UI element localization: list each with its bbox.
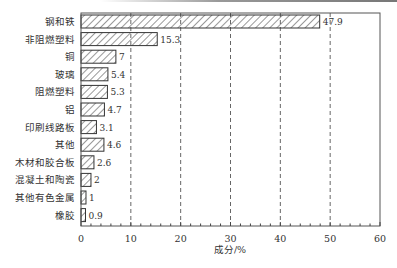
value-label: 4.6: [107, 140, 122, 150]
category-label: 阻燃塑料: [35, 86, 75, 97]
bar-row: 混凝土和陶瓷2: [15, 173, 100, 186]
bar: [81, 103, 104, 116]
bar: [81, 121, 96, 134]
bar: [81, 85, 107, 98]
bar: [81, 50, 116, 63]
bar: [81, 138, 104, 151]
bar-chart: 钢和铁47.9非阻燃塑料15.3铜7玻璃5.4阻燃塑料5.3铝4.7印刷线路板3…: [0, 0, 397, 268]
value-label: 2: [94, 175, 100, 185]
bar-row: 其他有色金属1: [15, 191, 95, 204]
category-label: 其他有色金属: [15, 192, 75, 203]
value-label: 4.7: [107, 105, 122, 115]
x-tick-label: 60: [374, 233, 386, 244]
bar-row: 木材和胶合板2.6: [15, 156, 112, 169]
category-label: 非阻燃塑料: [25, 34, 75, 45]
category-label: 其他: [55, 139, 75, 150]
category-label: 木材和胶合板: [15, 157, 75, 168]
x-tick-label: 50: [324, 233, 336, 244]
category-label: 玻璃: [55, 69, 75, 80]
value-label: 7: [119, 52, 125, 62]
x-axis-label: 成分/%: [214, 244, 246, 255]
bar-row: 非阻燃塑料15.3: [25, 33, 181, 46]
x-axis: 0102030405060: [78, 222, 386, 244]
bar-row: 阻燃塑料5.3: [35, 85, 125, 98]
bar: [81, 156, 94, 169]
value-label: 15.3: [160, 35, 180, 45]
value-label: 47.9: [323, 17, 343, 27]
bar-row: 铜7: [65, 50, 125, 63]
bars: 钢和铁47.9非阻燃塑料15.3铜7玻璃5.4阻燃塑料5.3铝4.7印刷线路板3…: [15, 15, 343, 222]
bar-row: 印刷线路板3.1: [25, 121, 114, 134]
category-label: 橡胶: [55, 210, 75, 221]
value-label: 5.4: [111, 70, 126, 80]
bar-row: 其他4.6: [55, 138, 122, 151]
x-tick-label: 0: [78, 233, 84, 244]
x-tick-label: 30: [224, 233, 236, 244]
bar: [81, 191, 86, 204]
grid-lines: [131, 13, 330, 226]
bar-row: 玻璃5.4: [55, 68, 125, 81]
category-label: 铜: [65, 51, 75, 62]
bar-row: 铝4.7: [65, 103, 122, 116]
value-label: 3.1: [99, 123, 113, 133]
bar: [81, 68, 108, 81]
value-label: 2.6: [97, 158, 112, 168]
x-tick-label: 40: [274, 233, 286, 244]
category-label: 混凝土和陶瓷: [15, 174, 75, 185]
value-label: 1: [89, 193, 95, 203]
bar-row: 橡胶0.9: [55, 209, 103, 222]
bar: [81, 33, 157, 46]
bar-row: 钢和铁47.9: [45, 15, 343, 28]
value-label: 5.3: [110, 87, 125, 97]
category-label: 钢和铁: [45, 16, 75, 27]
category-label: 铝: [65, 104, 75, 115]
bar: [81, 209, 85, 222]
value-label: 0.9: [88, 211, 103, 221]
bar: [81, 15, 320, 28]
x-tick-label: 20: [175, 233, 187, 244]
category-label: 印刷线路板: [25, 122, 75, 133]
bar: [81, 173, 91, 186]
x-tick-label: 10: [125, 233, 137, 244]
